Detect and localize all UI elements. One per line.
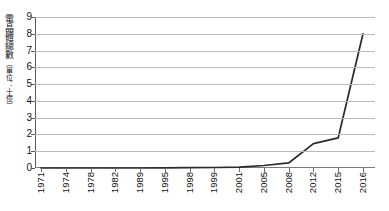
plot-area xyxy=(35,17,375,168)
gridline xyxy=(35,118,375,119)
y-axis-title-main: 電晶體總數 xyxy=(4,14,14,59)
data-series-line xyxy=(35,17,375,168)
y-axis-tick-labels: 0123456789 xyxy=(14,0,32,211)
x-tick-label: 2005 xyxy=(259,172,269,193)
x-axis-tick-labels: 1971197419781982198919951998199920012005… xyxy=(35,172,375,211)
x-tick-label: 1971 xyxy=(36,172,46,193)
x-tick-label: 2001 xyxy=(234,172,244,193)
y-tick-label: 7 xyxy=(18,46,32,56)
y-tick-mark xyxy=(31,151,35,152)
y-tick-mark xyxy=(31,67,35,68)
x-tick-label: 1982 xyxy=(110,172,120,193)
y-tick-mark xyxy=(31,134,35,135)
y-tick-label: 1 xyxy=(18,146,32,156)
y-tick-label: 8 xyxy=(18,29,32,39)
y-tick-label: 4 xyxy=(18,96,32,106)
transistor-count-line-chart: 電晶體總數 （單位：十億） 0123456789 197119741978198… xyxy=(0,0,389,211)
gridline xyxy=(35,67,375,68)
gridline xyxy=(35,84,375,85)
gridline xyxy=(35,51,375,52)
y-tick-label: 2 xyxy=(18,129,32,139)
x-tick-label: 1998 xyxy=(185,172,195,193)
gridline xyxy=(35,151,375,152)
y-tick-mark xyxy=(31,51,35,52)
y-axis-title-unit: （單位：十億） xyxy=(5,60,13,109)
x-tick-label: 2008 xyxy=(284,172,294,193)
x-tick-label: 1974 xyxy=(61,172,71,193)
y-tick-label: 6 xyxy=(18,62,32,72)
x-tick-label: 1999 xyxy=(209,172,219,193)
y-tick-mark xyxy=(31,34,35,35)
gridline xyxy=(35,17,375,18)
gridline xyxy=(35,134,375,135)
y-tick-mark xyxy=(31,118,35,119)
y-tick-label: 5 xyxy=(18,79,32,89)
x-tick-label: 2015 xyxy=(333,172,343,193)
y-tick-label: 0 xyxy=(18,163,32,173)
x-tick-label: 2012 xyxy=(308,172,318,193)
x-tick-label: 1978 xyxy=(86,172,96,193)
y-tick-mark xyxy=(31,168,35,169)
x-tick-label: 2016 xyxy=(358,172,368,193)
gridline xyxy=(35,34,375,35)
y-tick-label: 9 xyxy=(18,12,32,22)
y-tick-mark xyxy=(31,17,35,18)
y-tick-label: 3 xyxy=(18,113,32,123)
y-tick-mark xyxy=(31,101,35,102)
x-tick-label: 1989 xyxy=(135,172,145,193)
gridline xyxy=(35,101,375,102)
y-tick-mark xyxy=(31,84,35,85)
x-tick-label: 1995 xyxy=(160,172,170,193)
